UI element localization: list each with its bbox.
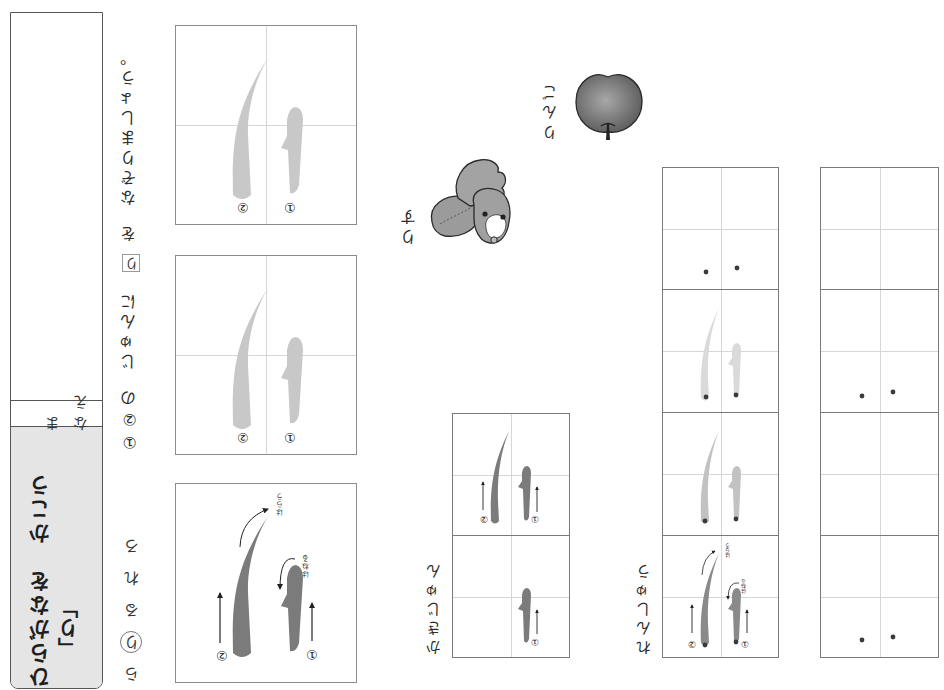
row-guide-item-current: り: [116, 626, 146, 658]
name-label: なまえ: [11, 393, 102, 435]
target-char-heading: 「り」: [59, 598, 81, 658]
stroke-order-step-box: [452, 413, 570, 536]
boxed-char-text: り: [125, 257, 138, 270]
worksheet-page: なまえ ひらがなを かこう 「り」 ら り る れ ろ ①②の じゅんに り を…: [0, 0, 944, 690]
trace-box: [175, 255, 357, 455]
practice-box: [662, 289, 779, 413]
instruction-text-before: じゅんに: [122, 290, 140, 370]
gyou-row-guide: ら り る れ ろ: [116, 530, 146, 690]
row-guide-item: ら: [116, 658, 146, 690]
practice-box: [662, 412, 779, 536]
stroke-2-number: ②: [688, 639, 696, 648]
stroke-2-number: ②: [480, 514, 488, 523]
row-guide-item: ろ: [116, 530, 146, 562]
practice-box: [662, 535, 779, 658]
row-guide-item: る: [116, 594, 146, 626]
worksheet-title: ひらがなを かこう: [31, 472, 55, 688]
stroke-2-number: ②: [237, 201, 249, 214]
stroke-1-number: ①: [306, 648, 318, 661]
instruction-particle: を: [122, 222, 140, 242]
name-label-row: なまえ: [11, 400, 102, 427]
haneru-note: はねる: [741, 579, 747, 594]
free-practice-box: [820, 289, 939, 413]
squirrel-illustration: [431, 160, 510, 244]
instruction-text-after: なぞりましょう。: [122, 46, 140, 206]
stroke-1-number: ①: [531, 637, 539, 646]
stroke-order-step-box: [452, 535, 570, 658]
free-practice-box: [820, 167, 939, 290]
squirrel-label: りす: [402, 205, 419, 245]
stroke-2-number: ②: [216, 649, 228, 662]
instruction-boxed-char: り: [122, 254, 140, 272]
stroke-1-number: ①: [284, 201, 296, 214]
apple-label: りんご: [543, 80, 560, 140]
name-title-band: なまえ: [10, 12, 103, 689]
name-writing-area: [11, 13, 102, 400]
apple-illustration: [576, 75, 642, 140]
stroke-1-number: ①: [531, 514, 539, 523]
haneru-note: はねる: [303, 554, 312, 578]
stroke-1-number: ①: [741, 639, 749, 648]
harau-note: はらう: [725, 543, 731, 558]
model-stroke-box: [175, 483, 357, 683]
harau-note: はらう: [277, 492, 286, 516]
stroke-order-label: かきじゅん: [427, 560, 445, 655]
row-guide-item: れ: [116, 562, 146, 594]
trace-box: [175, 25, 357, 225]
instruction-order-marks: ①②の: [122, 392, 140, 452]
stroke-1-number: ①: [284, 431, 296, 444]
practice-box: [662, 167, 779, 290]
free-practice-box: [820, 412, 939, 536]
stroke-2-number: ②: [237, 431, 249, 444]
free-practice-box: [820, 535, 939, 658]
practice-label: れんしゅう: [637, 560, 655, 655]
